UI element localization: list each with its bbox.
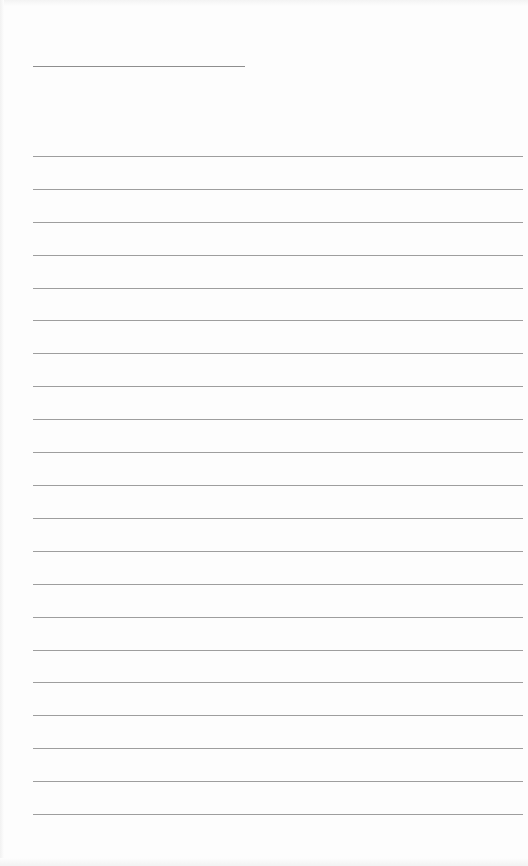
ruled-line	[33, 156, 523, 157]
ruled-line	[33, 419, 523, 420]
header-title-line	[33, 66, 245, 67]
ruled-line	[33, 682, 523, 683]
ruled-line	[33, 353, 523, 354]
ruled-line	[33, 748, 523, 749]
ruled-line	[33, 715, 523, 716]
lined-paper-page	[0, 0, 528, 866]
ruled-line	[33, 255, 523, 256]
ruled-line	[33, 617, 523, 618]
ruled-line	[33, 288, 523, 289]
ruled-line	[33, 189, 523, 190]
page-left-edge	[0, 0, 4, 866]
ruled-line	[33, 320, 523, 321]
ruled-line	[33, 386, 523, 387]
ruled-line	[33, 551, 523, 552]
page-top-edge	[0, 0, 528, 6]
ruled-line	[33, 650, 523, 651]
ruled-line	[33, 781, 523, 782]
ruled-line	[33, 452, 523, 453]
ruled-line	[33, 814, 523, 815]
page-bottom-edge	[0, 858, 528, 866]
ruled-line	[33, 222, 523, 223]
ruled-line	[33, 485, 523, 486]
ruled-line	[33, 518, 523, 519]
ruled-line	[33, 584, 523, 585]
